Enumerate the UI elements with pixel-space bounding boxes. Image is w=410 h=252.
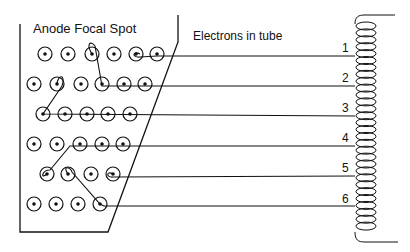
focal-spot-dot [155,52,159,56]
channel-5-label: 5 [342,161,349,175]
channel-2-label: 2 [342,71,349,85]
focal-spot-dot [32,142,36,146]
coil-bottom-lead [355,232,398,242]
focal-spot-circles [27,47,164,211]
focal-spot-dot [78,142,82,146]
channel-6-label: 6 [342,192,349,206]
focal-spot-dot [79,82,83,86]
focal-spot-dot [43,52,47,56]
focal-spot-dot [55,142,59,146]
channel-4-label: 4 [342,131,349,145]
focal-spot-dot [32,202,36,206]
electron-paths [43,43,355,206]
coil-icon [356,22,376,230]
focal-spot-dot [100,142,104,146]
electrons-in-tube-label: Electrons in tube [193,29,282,43]
focal-spot-dot [122,82,126,86]
focal-spot-dot [76,202,80,206]
focal-spot-dot [112,52,116,56]
focal-spot-dot [54,202,58,206]
channel-1-label: 1 [342,41,349,55]
focal-spot-dot [121,142,125,146]
anode-focal-spot-label: Anode Focal Spot [33,21,136,36]
channel-3-label: 3 [342,101,349,115]
focal-spot-dot [89,172,93,176]
focal-spot-dot [66,52,70,56]
focal-spot-dot [143,82,147,86]
focal-spot-dot [32,82,36,86]
